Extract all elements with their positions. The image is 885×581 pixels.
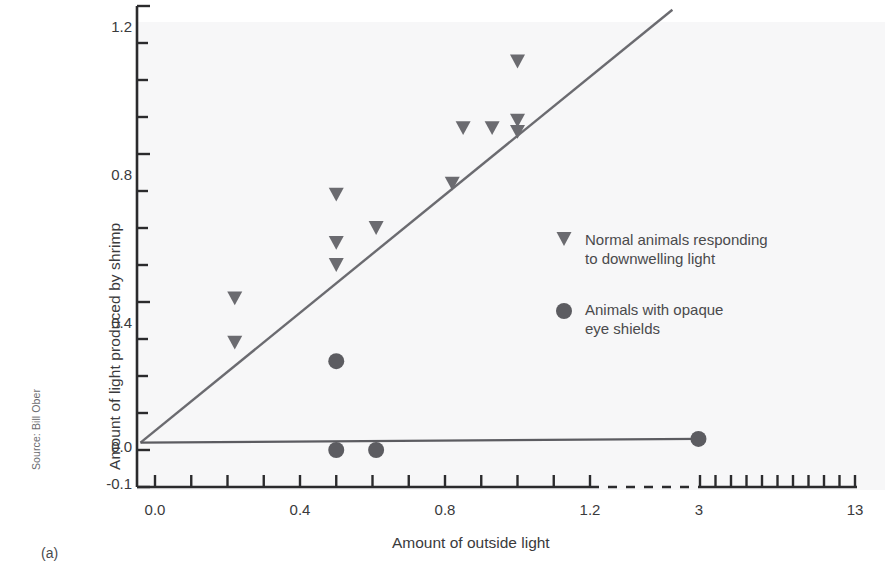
figure-panel-a: Amount of light produced by shrimp Sourc…	[0, 0, 885, 581]
fit-line	[141, 439, 699, 443]
triangle-down-icon	[456, 121, 471, 135]
triangle-down-icon	[329, 258, 344, 272]
fit-line	[141, 10, 673, 443]
triangle-down-icon	[227, 336, 242, 350]
triangle-down-icon	[485, 121, 500, 135]
data-points-group	[227, 55, 706, 458]
circle-marker	[690, 431, 706, 447]
triangle-down-icon	[369, 221, 384, 235]
triangle-down-icon	[329, 188, 344, 202]
triangle-down-icon	[557, 232, 572, 246]
fit-lines-group	[141, 10, 699, 443]
triangle-down-icon	[329, 236, 344, 250]
circle-marker	[328, 353, 344, 369]
triangle-down-icon	[227, 291, 242, 305]
triangle-down-icon	[510, 55, 525, 69]
circle-marker	[556, 303, 572, 319]
circle-marker	[368, 442, 384, 458]
circle-marker	[328, 442, 344, 458]
legend-markers-group	[556, 232, 572, 319]
axes-group	[137, 6, 857, 487]
scatter-plot	[0, 0, 885, 581]
